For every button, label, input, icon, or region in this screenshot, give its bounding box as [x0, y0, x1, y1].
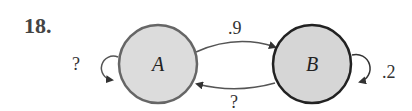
edge-a-to-a: ? — [72, 54, 118, 80]
loop-arrow-icon — [101, 56, 118, 80]
edge-label: .2 — [382, 62, 396, 82]
loop-arrow-icon — [352, 54, 370, 82]
edge-b-to-a: ? — [197, 83, 275, 111]
edge-label: ? — [72, 54, 80, 74]
node-a: A — [119, 25, 197, 103]
arrow-icon — [197, 83, 275, 89]
edge-a-to-b: .9 — [196, 18, 275, 52]
edge-label: ? — [230, 92, 238, 111]
edge-label: .9 — [228, 18, 242, 38]
arrow-icon — [196, 42, 275, 52]
node-b: B — [273, 25, 351, 103]
problem-number: 18. — [24, 13, 52, 38]
edge-b-to-b: .2 — [352, 54, 396, 82]
node-label: A — [150, 53, 165, 75]
markov-diagram: 18. ? .9 ? .2 A B — [0, 0, 412, 111]
node-label: B — [306, 53, 318, 75]
